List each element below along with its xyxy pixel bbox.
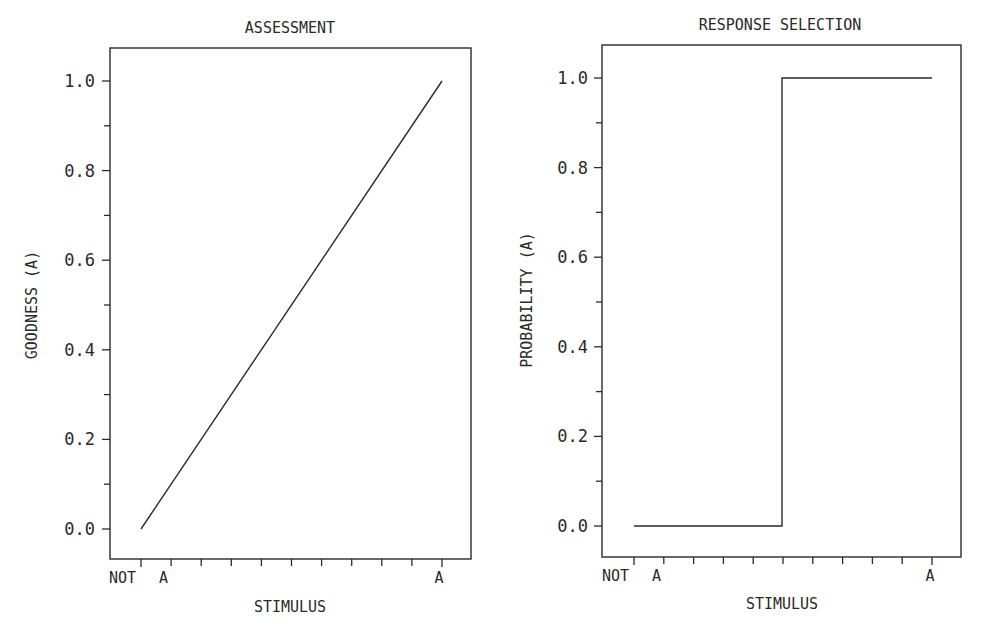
x-tick-label-not: NOT [109,569,136,587]
x-tick-label-a-left: A [652,567,661,585]
y-tick-label: 0.6 [64,250,95,270]
y-axis-tick-labels: 0.0 0.2 0.4 0.6 0.8 1.0 [557,68,588,536]
y-tick-label: 1.0 [64,71,95,91]
y-tick-label: 0.6 [557,247,588,267]
y-axis-label: PROBABILITY (A) [518,232,536,367]
y-axis-label: GOODNESS (A) [23,251,41,359]
goodness-line [141,81,442,529]
x-axis-ticks [141,559,442,567]
plot-frame [110,48,471,559]
figure: ASSESSMENT 0.0 0.2 0.4 0.6 0.8 1.0 [0,0,981,636]
y-axis-ticks [102,81,110,529]
assessment-chart: ASSESSMENT 0.0 0.2 0.4 0.6 0.8 1.0 [23,19,471,616]
probability-step-line [634,78,932,526]
y-tick-label: 0.8 [557,158,588,178]
y-axis-ticks [594,78,602,526]
x-axis-ticks [634,557,932,565]
y-tick-label: 0.2 [64,429,95,449]
x-tick-label-a: A [925,567,934,585]
x-tick-label-a: A [434,569,443,587]
y-tick-label: 0.4 [557,337,588,357]
x-axis-label: STIMULUS [746,595,818,613]
x-axis-label: STIMULUS [254,598,326,616]
y-tick-label: 0.0 [64,519,95,539]
y-tick-label: 1.0 [557,68,588,88]
y-tick-label: 0.2 [557,426,588,446]
y-tick-label: 0.0 [557,516,588,536]
chart-title: RESPONSE SELECTION [699,16,862,34]
y-tick-label: 0.8 [64,161,95,181]
chart-title: ASSESSMENT [245,19,335,37]
y-axis-tick-labels: 0.0 0.2 0.4 0.6 0.8 1.0 [64,71,95,539]
x-tick-label-not: NOT [602,567,629,585]
response-selection-chart: RESPONSE SELECTION 0.0 0.2 0.4 0.6 0.8 1… [518,16,961,613]
x-tick-label-a-left: A [159,569,168,587]
y-tick-label: 0.4 [64,340,95,360]
